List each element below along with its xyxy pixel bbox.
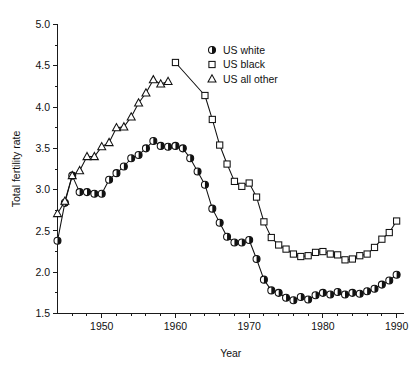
data-point-marker — [357, 253, 363, 259]
data-point-marker — [54, 209, 62, 216]
series-us-all-other — [54, 76, 173, 217]
data-point-marker — [268, 234, 274, 240]
x-tick-label: 1960 — [164, 320, 188, 332]
data-point-marker — [394, 218, 400, 224]
data-point-marker — [231, 178, 237, 184]
data-point-marker — [164, 77, 172, 84]
x-axis-title: Year — [220, 347, 242, 359]
legend: US whiteUS blackUS all other — [208, 44, 278, 85]
data-point-marker — [127, 113, 135, 120]
y-axis-title: Total fertility rate — [10, 131, 22, 208]
legend-marker-icon — [208, 75, 216, 82]
x-tick-label: 1970 — [238, 320, 262, 332]
data-point-marker — [320, 248, 326, 254]
data-point-marker — [335, 252, 341, 258]
data-point-marker — [261, 219, 267, 225]
data-point-marker — [246, 180, 252, 186]
data-point-marker — [386, 229, 392, 235]
data-point-marker — [105, 138, 113, 145]
data-point-marker — [312, 249, 318, 255]
data-point-marker — [172, 59, 178, 65]
data-point-marker — [364, 251, 370, 257]
y-tick-label: 4.0 — [35, 101, 50, 113]
y-tick-label: 3.0 — [35, 183, 50, 195]
series-line — [175, 62, 396, 259]
data-point-marker — [349, 256, 355, 262]
legend-item-us-white: US white — [209, 44, 266, 56]
data-point-marker — [305, 253, 311, 259]
axes: 1.52.02.53.03.54.04.55.01950196019701980… — [35, 18, 408, 332]
data-point-marker — [76, 166, 84, 173]
data-point-marker — [298, 253, 304, 259]
data-point-marker — [83, 152, 91, 159]
data-point-marker — [379, 236, 385, 242]
data-point-marker — [283, 246, 289, 252]
legend-item-us-all-other: US all other — [208, 73, 278, 85]
x-tick-label: 1980 — [311, 320, 335, 332]
data-point-marker — [202, 92, 208, 98]
data-point-marker — [142, 89, 150, 96]
x-tick-label: 1950 — [90, 320, 114, 332]
legend-item-label: US white — [223, 44, 265, 56]
data-point-marker — [276, 242, 282, 248]
data-point-marker — [149, 76, 157, 83]
legend-item-us-black: US black — [209, 58, 266, 70]
y-tick-label: 1.5 — [35, 307, 50, 319]
fertility-rate-line-chart: 1.52.02.53.03.54.04.55.01950196019701980… — [0, 0, 416, 372]
y-tick-label: 3.5 — [35, 142, 50, 154]
y-tick-label: 2.5 — [35, 225, 50, 237]
y-tick-label: 5.0 — [35, 18, 50, 30]
data-point-marker — [239, 183, 245, 189]
data-point-marker — [253, 194, 259, 200]
data-point-marker — [371, 244, 377, 250]
legend-item-label: US all other — [223, 73, 278, 85]
data-point-marker — [327, 251, 333, 257]
data-series-layer — [54, 59, 401, 303]
chart-figure: 1.52.02.53.03.54.04.55.01950196019701980… — [0, 0, 416, 372]
series-us-black — [172, 59, 399, 263]
series-line — [58, 80, 169, 214]
y-tick-label: 2.0 — [35, 266, 50, 278]
legend-item-label: US black — [223, 58, 266, 70]
data-point-marker — [290, 251, 296, 257]
data-point-marker — [209, 116, 215, 122]
x-tick-label: 1990 — [385, 320, 409, 332]
data-point-marker — [342, 257, 348, 263]
data-point-marker — [217, 142, 223, 148]
legend-marker-icon — [209, 61, 215, 67]
data-point-marker — [224, 161, 230, 167]
y-tick-label: 4.5 — [35, 59, 50, 71]
